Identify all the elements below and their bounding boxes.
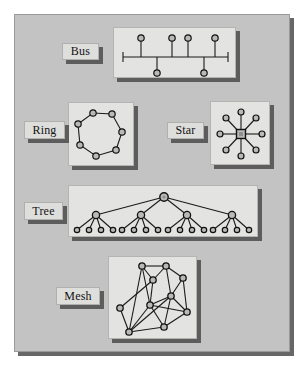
bus-label: Bus [62,43,99,60]
tree-diagram [69,186,259,238]
mesh-panel [108,256,197,339]
star-hub-core [239,132,243,136]
bus-panel [113,27,236,78]
tree-branch-nodes [92,211,235,218]
mesh-label: Mesh [56,287,100,305]
network-topologies-figure: Bus Ring [0,0,308,370]
bus-label-text: Bus [71,45,90,58]
ring-diagram [69,103,135,167]
star-label: Star [167,122,204,139]
mesh-diagram [109,257,198,340]
star-panel [210,101,270,165]
mesh-edges [120,266,187,332]
ring-label: Ring [24,121,65,139]
tree-label: Tree [24,202,63,220]
tree-label-text: Tree [32,205,54,218]
star-diagram [211,102,271,166]
tree-leaf-nodes [74,227,251,232]
ring-panel [68,102,134,166]
bus-nodes [138,35,218,76]
ring-nodes [75,110,125,159]
ring-label-text: Ring [32,124,56,137]
mesh-nodes [117,263,190,335]
tree-edges [77,197,249,230]
bus-diagram [114,28,237,79]
tree-panel [68,185,258,237]
star-label-text: Star [175,124,195,137]
mesh-label-text: Mesh [64,290,91,303]
